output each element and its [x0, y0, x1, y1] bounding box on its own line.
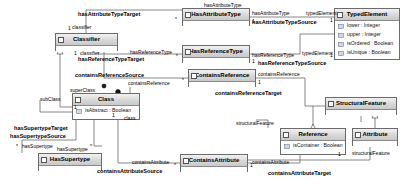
- edge-label-containsreferencesource: containsReferenceSource: [75, 72, 144, 78]
- edge-label-hasattributetypesource: hasAttributeTypeSource: [252, 19, 317, 25]
- node-body: lower : Integer upper : Integer isOrdere…: [335, 21, 399, 57]
- multiplicity-13: *: [16, 143, 18, 149]
- node-structuralfeature[interactable]: StructuralFeature: [325, 97, 397, 115]
- node-attribute[interactable]: Attribute: [352, 128, 398, 146]
- edge-label-hasreferencetypetarget: hasReferenceTypeTarget: [78, 56, 144, 62]
- node-body: [189, 82, 255, 88]
- edge-label-hassupertypetarget: hasSupertypeTarget: [14, 125, 68, 131]
- multiplicity-2: *: [175, 16, 177, 22]
- attribute-icon: [338, 50, 344, 55]
- multiplicity-11: 1: [74, 104, 77, 110]
- edge-label-class: class: [124, 115, 135, 121]
- attribute-label: isAbstract : Boolean: [85, 107, 131, 113]
- node-body: [181, 167, 247, 173]
- multiplicity-6: *: [176, 53, 178, 59]
- node-title: ContainsAttribute: [181, 155, 247, 167]
- node-title-text: Attribute: [363, 131, 388, 137]
- class-icon: [191, 73, 197, 79]
- edge-label-hasreferencetype: hasReferenceType: [130, 49, 172, 55]
- node-title: HasSupertype: [39, 154, 101, 166]
- edge-label-containsreference-2: containsReference: [258, 71, 300, 77]
- edge-label-structuralfeature-2: structuralFeature: [352, 150, 390, 156]
- edge-label-containsattributesource: containsAttributeSource: [97, 168, 162, 174]
- node-hasreferencetype[interactable]: HasReferenceType: [182, 45, 250, 63]
- multiplicity-17: 1: [250, 162, 253, 168]
- node-containsreference[interactable]: ContainsReference: [188, 69, 256, 87]
- attribute-row: lower : Integer: [335, 21, 399, 30]
- node-reference[interactable]: Reference isContainer : Boolean: [280, 128, 346, 155]
- edge-label-hasattributetype: hasAttributeType: [204, 2, 242, 8]
- edge-label-containsattribute-2: containsAttribute: [252, 159, 289, 165]
- node-hassupertype[interactable]: HasSupertype: [38, 153, 102, 171]
- node-hasattributetype[interactable]: HasAttributeType: [182, 8, 250, 26]
- multiplicity-12: 1: [112, 112, 115, 118]
- attribute-row: isUnique : Boolean: [335, 48, 399, 57]
- attribute-icon: [338, 32, 344, 37]
- edge-label-hasreferencetype-2: hasReferenceType: [252, 52, 294, 58]
- node-typedelement[interactable]: TypedElement lower : Integer upper : Int…: [334, 8, 400, 60]
- class-icon: [355, 132, 361, 138]
- node-title-text: ContainsReference: [195, 72, 250, 78]
- attribute-label: isContainer : Boolean: [293, 142, 343, 148]
- node-title-text: Reference: [298, 131, 327, 137]
- node-title-text: StructuralFeature: [336, 100, 386, 106]
- node-body: [326, 110, 396, 116]
- attribute-row: upper : Integer: [335, 30, 399, 39]
- edge-label-classifier-1: classifier: [72, 24, 91, 30]
- attribute-label: lower : Integer: [347, 22, 380, 28]
- attribute-icon: [338, 23, 344, 28]
- node-title-text: HasReferenceType: [189, 48, 243, 54]
- class-icon: [75, 97, 81, 103]
- node-title-text: Class: [98, 96, 114, 102]
- multiplicity-9: *: [182, 77, 184, 83]
- node-title: Attribute: [353, 129, 397, 141]
- edge-label-hasattributetype-2: hasAttributeType: [252, 10, 290, 16]
- node-title: HasAttributeType: [183, 9, 249, 21]
- edge-label-hassupertype-2: hasSupertype: [57, 146, 88, 152]
- class-icon: [183, 158, 189, 164]
- node-title: StructuralFeature: [326, 98, 396, 110]
- edge-label-hasreferencetypesource: hasReferenceTypeSource: [258, 60, 326, 66]
- edge-label-hassupertypesource: hasSupertypeSource: [10, 133, 66, 139]
- node-containsattribute[interactable]: ContainsAttribute: [180, 154, 248, 172]
- multiplicity-1: 1: [68, 25, 71, 31]
- edge-label-containsattributetarget: containsAttributeTarget: [268, 170, 331, 176]
- node-classifier[interactable]: Classifier: [55, 33, 118, 51]
- edge-label-containsattribute-1: containsAttribute: [132, 159, 169, 165]
- class-icon: [337, 12, 343, 18]
- attribute-icon: [284, 143, 290, 148]
- node-body: isContainer : Boolean: [281, 141, 345, 150]
- class-icon: [58, 37, 64, 43]
- multiplicity-8: 1: [330, 52, 333, 58]
- node-body: [39, 166, 101, 172]
- diagram-canvas: HasAttributeType TypedElement lower : In…: [0, 0, 402, 185]
- edge-label-hasattributetypetarget: hasAttributeTypeTarget: [78, 11, 140, 17]
- wire-class-hassupertype-b: [94, 120, 102, 146]
- multiplicity-15: 1: [338, 151, 341, 157]
- attribute-label: isUnique : Boolean: [347, 49, 391, 55]
- node-title: Classifier: [56, 34, 117, 46]
- node-body: [183, 21, 249, 27]
- class-icon: [328, 101, 334, 107]
- node-title: HasReferenceType: [183, 46, 249, 58]
- multiplicity-5: 1: [74, 50, 77, 56]
- multiplicity-7: 1: [252, 58, 255, 64]
- edge-label-structuralfeature-1: structuralFeature: [236, 120, 274, 126]
- attribute-row: isAbstract : Boolean: [73, 106, 139, 115]
- edge-label-hassupertype-1: hasSupertype: [22, 143, 53, 149]
- edge-label-typedelement: typedElement: [306, 10, 337, 16]
- node-title-text: TypedElement: [347, 11, 388, 17]
- edge-label-subclass: subClass: [40, 96, 61, 102]
- wire-class-classifier: [60, 51, 72, 107]
- node-title: Class: [73, 94, 139, 106]
- multiplicity-3: 1: [252, 18, 255, 24]
- node-body: [183, 58, 249, 64]
- wire-class-containsattribute: [118, 120, 180, 163]
- multiplicity-4: 1: [330, 17, 333, 23]
- node-body: isAbstract : Boolean: [73, 106, 139, 115]
- class-icon: [41, 157, 47, 163]
- node-title: ContainsReference: [189, 70, 255, 82]
- node-title: TypedElement: [335, 9, 399, 21]
- attribute-label: upper : Integer: [347, 31, 381, 37]
- attribute-row: isOrdered : Boolean: [335, 39, 399, 48]
